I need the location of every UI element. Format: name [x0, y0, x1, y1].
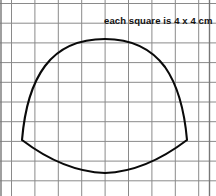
- page-background: [0, 0, 216, 196]
- grid-background: [0, 0, 216, 196]
- grid-scale-caption: each square is 4 x 4 cm: [104, 15, 212, 26]
- grid-figure-page: each square is 4 x 4 cm: [0, 0, 216, 196]
